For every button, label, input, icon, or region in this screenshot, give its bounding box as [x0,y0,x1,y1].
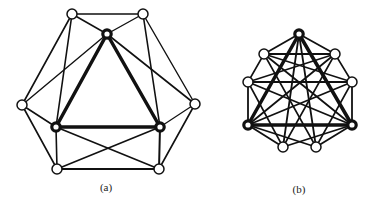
graph-node [330,49,340,59]
graph-edge [159,127,160,169]
graph-panel-a [17,9,200,174]
graph-node [156,123,164,131]
graph-node [347,77,357,87]
graph-edge [143,14,195,104]
graph-edge [248,54,335,125]
graph-node [278,142,288,152]
graph-edge [22,105,57,169]
graph-panel-b [243,30,357,152]
graph-node [52,164,62,174]
graph-edge [72,14,107,34]
graph-node [259,49,269,59]
graph-edge [56,34,107,127]
graph-node [138,9,148,19]
graph-edge [107,34,160,127]
graph-edge [159,104,195,169]
panel-label-a: (a) [100,181,112,193]
graph-node [295,30,303,38]
graph-edge [264,54,352,125]
graph-node [67,9,77,19]
graph-edge [22,105,56,127]
graph-node [243,77,253,87]
graph-node [190,99,200,109]
panel-label-b: (b) [293,183,306,195]
graph-edge [56,127,57,169]
graph-figure [0,0,373,205]
graph-node [348,121,356,129]
graph-node [311,142,321,152]
graph-edge [22,34,107,105]
graph-edge [22,14,72,105]
graph-edge [160,104,195,127]
graph-edge [107,14,143,34]
graph-node [52,123,60,131]
graph-node [103,30,111,38]
graph-node [244,121,252,129]
graph-edge [107,34,195,104]
graph-node [17,100,27,110]
graph-node [154,164,164,174]
